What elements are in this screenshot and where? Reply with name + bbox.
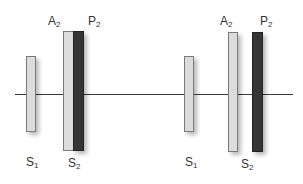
label-subscript: 2 [96, 20, 100, 29]
label-subscript: 2 [56, 20, 60, 29]
label-subscript: 2 [268, 20, 272, 29]
label-subscript: 2 [228, 20, 232, 29]
label-subscript: 2 [76, 162, 80, 171]
label-subscript: 2 [249, 163, 253, 172]
label-base: S [241, 157, 249, 171]
left-label-a2: A2 [48, 15, 60, 31]
right-label-s2: S2 [241, 158, 253, 174]
label-subscript: 1 [193, 161, 197, 170]
label-subscript: 1 [34, 161, 38, 170]
label-base: S [68, 156, 76, 170]
left-p2-element [73, 31, 84, 151]
right-label-s1: S1 [185, 156, 197, 172]
left-label-s1: S1 [26, 156, 38, 172]
right-s1-element [184, 56, 194, 132]
right-label-a2: A2 [220, 15, 232, 31]
right-label-p2: P2 [260, 15, 272, 31]
left-label-p2: P2 [88, 15, 100, 31]
left-s1-element [26, 56, 36, 132]
label-base: S [185, 155, 193, 169]
label-base: P [260, 14, 268, 28]
label-base: P [88, 14, 96, 28]
right-p2-element [252, 32, 263, 152]
right-a2-element [228, 32, 238, 152]
label-base: A [48, 14, 56, 28]
left-label-s2: S2 [68, 157, 80, 173]
label-base: A [220, 14, 228, 28]
label-base: S [26, 155, 34, 169]
